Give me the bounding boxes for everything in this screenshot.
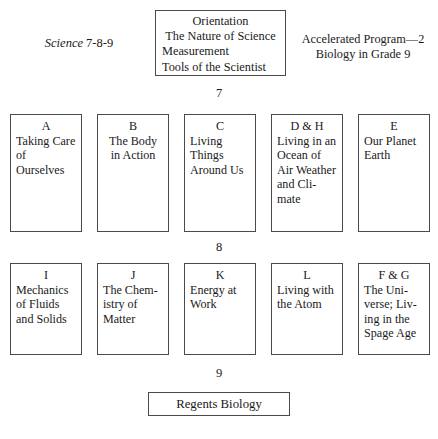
unit-title-l: Living with the Atom [277,283,337,312]
unit-title-k: Energy at Work [190,283,250,312]
science-program-label-grades: 7-8-9 [83,36,113,50]
grade-marker-8: 8 [0,240,438,254]
unit-code-i: I [16,268,76,283]
header-row: Science 7-8-9 Orientation The Nature of … [0,8,438,80]
unit-box-d-and-h: D & H Living in an Ocean of Air Weather … [271,114,343,232]
unit-code-b: B [103,119,163,134]
unit-code-j: J [103,268,163,283]
grade-marker-9: 9 [0,366,438,380]
orientation-line-1: Orientation [156,14,285,29]
unit-code-d-and-h: D & H [277,119,337,134]
orientation-line-2: The Nature of Science [156,29,285,44]
science-program-label: Science 7-8-9 [8,36,150,52]
regents-biology-label: Regents Biology [176,397,262,412]
regents-biology-box: Regents Biology [148,392,290,416]
unit-code-a: A [16,119,76,134]
unit-code-k: K [190,268,250,283]
unit-box-c: C Living Things Around Us [184,114,256,232]
unit-title-d-and-h: Living in an Ocean of Air Weather and Cl… [277,134,337,207]
curriculum-flowchart: Science 7-8-9 Orientation The Nature of … [0,0,438,439]
orientation-line-3: Measurement [156,44,285,59]
unit-box-f-and-g: F & G The Uni-verse; Liv-ing in the Spag… [358,263,430,355]
unit-title-c: Living Things Around Us [190,134,250,178]
accelerated-program-label: Accelerated Program—2 Biology in Grade 9 [288,32,438,63]
unit-box-j: J The Chem-istry of Matter [97,263,169,355]
orientation-box: Orientation The Nature of Science Measur… [155,10,286,76]
unit-title-b: The Body in Action [103,134,163,163]
unit-box-e: E Our Planet Earth [358,114,430,232]
unit-title-a: Taking Care of Ourselves [16,134,76,178]
unit-title-i: Mechanics of Fluids and Solids [16,283,76,327]
unit-row-grade-7: A Taking Care of Ourselves B The Body in… [10,114,430,232]
unit-box-i: I Mechanics of Fluids and Solids [10,263,82,355]
unit-row-grade-8: I Mechanics of Fluids and Solids J The C… [10,263,430,355]
unit-box-l: L Living with the Atom [271,263,343,355]
unit-code-e: E [364,119,424,134]
unit-code-f-and-g: F & G [364,268,424,283]
unit-box-b: B The Body in Action [97,114,169,232]
unit-title-f-and-g: The Uni-verse; Liv-ing in the Spage Age [364,283,424,341]
accelerated-program-line-2: Biology in Grade 9 [288,47,438,62]
unit-code-c: C [190,119,250,134]
unit-box-a: A Taking Care of Ourselves [10,114,82,232]
science-program-label-italic: Science [45,36,83,50]
accelerated-program-line-1: Accelerated Program—2 [288,32,438,47]
unit-box-k: K Energy at Work [184,263,256,355]
grade-marker-7: 7 [0,86,438,100]
unit-title-j: The Chem-istry of Matter [103,283,163,327]
orientation-line-4: Tools of the Scientist [156,60,285,75]
unit-code-l: L [277,268,337,283]
unit-title-e: Our Planet Earth [364,134,424,163]
